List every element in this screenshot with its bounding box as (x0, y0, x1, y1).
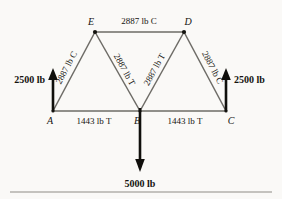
member-label-BC: 1443 lb T (168, 116, 203, 126)
reaction-a-label: 2500 lb (14, 74, 45, 85)
truss-diagram-figure: E D A B C 2887 lb C 2887 lb C 2887 lb T … (0, 0, 282, 199)
member-label-ED: 2887 lb C (121, 16, 157, 26)
joint-dot-E (93, 30, 97, 34)
member-EB (95, 32, 140, 111)
reaction-c-label: 2500 lb (234, 74, 265, 85)
joint-label-D: D (183, 16, 192, 27)
joint-dot-D (182, 30, 186, 34)
joint-label-C: C (228, 115, 235, 126)
force-reaction-a: 2500 lb (14, 68, 58, 111)
truss-members (53, 32, 226, 111)
load-b-arrowhead-icon (135, 159, 145, 172)
load-b-label: 5000 lb (125, 178, 156, 189)
force-reaction-c: 2500 lb (221, 68, 265, 111)
member-label-AB: 1443 lb T (77, 116, 112, 126)
joint-label-E: E (87, 16, 94, 27)
joint-label-A: A (46, 115, 54, 126)
force-load-b: 5000 lb (125, 108, 156, 189)
truss-diagram-canvas: E D A B C 2887 lb C 2887 lb C 2887 lb T … (0, 0, 282, 199)
truss-joints (51, 30, 227, 113)
